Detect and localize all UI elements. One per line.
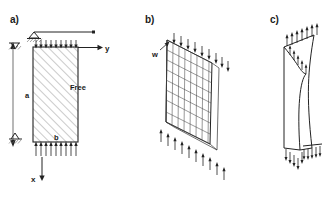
panel-b-mesh-grid: [166, 40, 212, 144]
panel-c-bottom-right-arrows: [303, 146, 322, 160]
panel-c-right-lower-edge: [303, 144, 322, 146]
panel-a-support-lower-left: [9, 133, 22, 144]
figure-canvas: a) a: [0, 0, 329, 203]
panel-b-plate-outline: [166, 40, 219, 150]
panel-a-y-axis: y: [78, 44, 110, 53]
panel-c-label: c): [270, 14, 279, 25]
panel-a-x-axis: x: [31, 157, 45, 184]
panel-b-group: b): [145, 14, 230, 180]
panel-a-x-axis-label: x: [31, 175, 36, 184]
panel-c-top-load-arrows: [286, 23, 319, 46]
panel-a-plate-rect: [33, 47, 78, 142]
panel-c-group: c): [270, 14, 322, 170]
panel-b-load-label: w: [151, 50, 158, 59]
panel-c-buckled-plate-outline: [284, 35, 314, 150]
panel-a-top-load-arrows: [34, 40, 77, 49]
panel-b-label: b): [145, 14, 154, 25]
panel-a-dimension-line-left: [10, 42, 15, 147]
panel-a-label: a): [10, 14, 19, 25]
panel-a-plate: [33, 47, 78, 142]
panel-a-free-edge-label: Free: [70, 83, 86, 92]
panel-a-group: a) a: [9, 14, 110, 184]
panel-a-dimension-b-label: b: [54, 133, 59, 142]
panel-c-inner-top-arrows: [289, 45, 308, 74]
panel-a-dimension-a-label: a: [25, 91, 30, 100]
three-panel-plate-buckling-figure: a) a: [0, 0, 329, 203]
panel-b-top-load-arrows: [172, 33, 229, 72]
panel-c-bottom-load-arrows: [285, 149, 304, 170]
panel-a-y-axis-label: y: [105, 44, 110, 53]
panel-a-bottom-load-arrows: [34, 142, 77, 157]
